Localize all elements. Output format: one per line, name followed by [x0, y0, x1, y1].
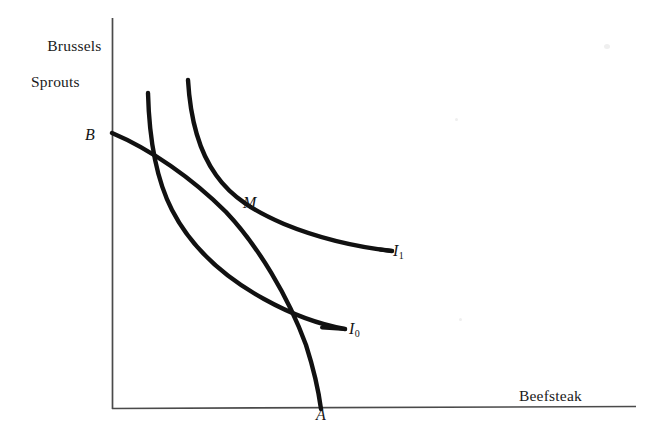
point-label-m: M: [243, 194, 256, 212]
x-axis-title: Beefsteak: [519, 387, 582, 405]
i1-leader-line: [380, 250, 392, 252]
point-label-b: B: [85, 126, 95, 144]
curve-label-i0-base: I: [349, 320, 354, 337]
figure-canvas: Brussels Sprouts Beefsteak B M A I1 I0: [0, 0, 671, 442]
point-label-a: A: [316, 406, 326, 424]
y-axis-title-line1: Brussels: [47, 37, 101, 54]
curve-label-i1-subscript: 1: [399, 250, 404, 261]
curve-label-i0-subscript: 0: [355, 328, 360, 339]
y-axis-title-line2: Sprouts: [31, 73, 101, 91]
scan-speck: [604, 44, 610, 49]
y-axis-title: Brussels Sprouts: [31, 19, 101, 127]
i0-leader-line: [322, 328, 345, 330]
curve-label-i1: I1: [393, 242, 403, 260]
curve-label-i1-base: I: [393, 242, 398, 259]
scan-speck: [455, 118, 458, 121]
curve-label-i0: I0: [349, 320, 359, 338]
scan-speck: [459, 318, 462, 321]
